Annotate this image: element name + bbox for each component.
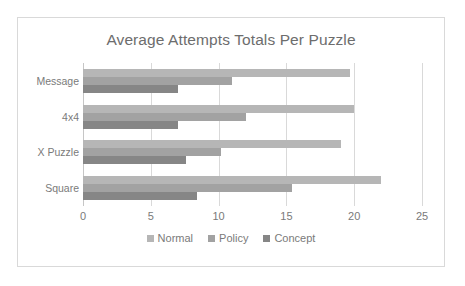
legend-label: Normal	[158, 232, 193, 244]
x-axis-tick-label: 25	[416, 210, 428, 222]
category-label-4x4: 4x4	[62, 111, 79, 123]
chart-legend: NormalPolicyConcept	[18, 232, 444, 244]
category-label-x-puzzle: X Puzzle	[38, 146, 79, 158]
legend-item-normal[interactable]: Normal	[147, 232, 193, 244]
chart-title: Average Attempts Totals Per Puzzle	[18, 31, 444, 49]
bar-message-policy	[83, 77, 232, 85]
category-label-square: Square	[45, 182, 79, 194]
x-gridline	[354, 63, 355, 206]
legend-item-concept[interactable]: Concept	[263, 232, 315, 244]
x-axis-tick-label: 15	[280, 210, 292, 222]
bar-square-normal	[83, 176, 381, 184]
bar-square-policy	[83, 184, 292, 192]
legend-item-policy[interactable]: Policy	[208, 232, 248, 244]
plot-area: 0510152025Message4x4X PuzzleSquare	[83, 63, 422, 206]
x-gridline	[422, 63, 423, 206]
x-axis-tick-label: 20	[348, 210, 360, 222]
legend-swatch-icon	[263, 235, 270, 242]
bar-x-puzzle-concept	[83, 156, 186, 164]
x-axis-tick-label: 0	[80, 210, 86, 222]
legend-swatch-icon	[147, 235, 154, 242]
legend-label: Policy	[219, 232, 248, 244]
x-axis-tick-label: 5	[148, 210, 154, 222]
legend-swatch-icon	[208, 235, 215, 242]
bar-4x4-normal	[83, 105, 354, 113]
category-label-message: Message	[36, 75, 79, 87]
bar-x-puzzle-policy	[83, 148, 221, 156]
bar-4x4-policy	[83, 113, 246, 121]
bar-4x4-concept	[83, 121, 178, 129]
bar-x-puzzle-normal	[83, 140, 341, 148]
chart-container: Average Attempts Totals Per Puzzle 05101…	[17, 17, 445, 267]
bar-message-concept	[83, 85, 178, 93]
legend-label: Concept	[274, 232, 315, 244]
bar-message-normal	[83, 69, 350, 77]
bar-square-concept	[83, 192, 197, 200]
x-axis-tick-label: 10	[212, 210, 224, 222]
